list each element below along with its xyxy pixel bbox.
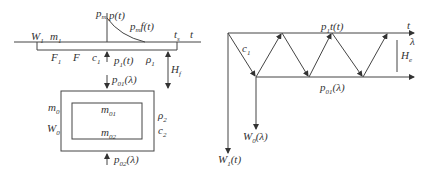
label-rho2: ρ2 (157, 109, 167, 124)
label-pt: p(t) (108, 9, 125, 22)
wave-zigzag (228, 33, 387, 77)
label-lambda: λ (409, 35, 415, 47)
label-W1: W1(t) (218, 153, 241, 168)
label-pmft: pmf(t) (129, 20, 154, 34)
label-t: t (407, 19, 411, 31)
label-W0: W0(λ) (243, 130, 268, 145)
diagram-canvas: W1 m1 pm p(t) pmf(t) ts t F1 F c1 p1(t) … (0, 0, 426, 179)
label-pm: pm (95, 7, 107, 21)
label-c1: c1 (242, 42, 250, 57)
label-c1: c1 (92, 51, 100, 66)
label-c2: c2 (158, 124, 167, 139)
label-ts: ts (174, 28, 180, 43)
left-diagram: W1 m1 pm p(t) pmf(t) ts t F1 F c1 p1(t) … (14, 7, 201, 168)
label-p01: p01(λ) (319, 81, 345, 96)
label-rho1: ρ1 (145, 53, 155, 68)
outer-box (61, 91, 154, 151)
label-Hf: Hf (170, 63, 182, 78)
label-He: He (400, 49, 412, 64)
label-p1t: p1(t) (113, 54, 134, 69)
label-m01: m01 (101, 103, 116, 118)
label-m1: m1 (50, 30, 61, 45)
label-F: F (72, 51, 80, 63)
label-W0: W0 (47, 122, 60, 137)
right-diagram: p1t(t) t λ c1 He p01(λ) W0(λ) W1(t) (218, 19, 415, 168)
label-t: t (190, 28, 194, 40)
label-F1: F1 (50, 51, 61, 66)
label-m0: m0 (48, 101, 60, 116)
label-p01: p01(λ) (111, 73, 137, 88)
label-p02: p02(λ) (113, 153, 139, 168)
